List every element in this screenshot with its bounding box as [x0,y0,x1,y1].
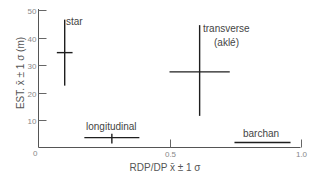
label-longitudinal: longitudinal [86,121,137,132]
x-axis-title: RDP/DP x̄ ± 1 σ [130,162,202,173]
y-ticks: 1020304050 [28,7,47,126]
y-tick-label: 50 [28,7,37,16]
error-cross-longitudinal [84,134,139,144]
chart-canvas: 1020304050 0.51.0 0 RDP/DP x̄ ± 1 σ EST.… [0,0,318,181]
label-barchan: barchan [243,128,279,139]
origin-label: 0 [33,149,38,158]
label-transverse-akle: (aklé) [214,37,239,48]
y-tick-label: 10 [28,117,37,126]
x-tick-label: 1.0 [296,150,308,159]
y-tick-label: 20 [28,90,37,99]
label-star: star [66,16,83,27]
error-cross-star [57,20,73,86]
y-axis-title: EST. x̄ ± 1 σ (m) [15,37,26,109]
x-tick-label: 0.5 [165,150,177,159]
label-transverse: transverse [203,23,250,34]
y-tick-label: 40 [28,35,37,44]
y-tick-label: 30 [28,62,37,71]
